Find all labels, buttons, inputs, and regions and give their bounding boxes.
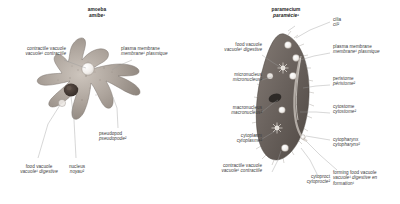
label-fr: vacuole¹ digestive [200, 47, 262, 52]
label-fr: vacuole¹ digestive en formation¹ [333, 175, 393, 186]
label-paramecium-cytoplasm: cytoplasm cytoplasme² [204, 133, 262, 144]
label-fr: pseudopode² [99, 136, 159, 141]
label-fr: cytoprocte² [278, 179, 330, 184]
label-amoeba-plasma-membrane: plasma membrane membrane¹ plasmique [121, 46, 199, 57]
label-fr: cytostome² [333, 109, 379, 114]
amoeba-title-fr: amibe¹ [72, 13, 122, 19]
label-fr: péristome² [333, 81, 379, 86]
label-paramecium-cytopharynx: cytopharynx cytopharynx² [333, 137, 381, 148]
label-fr: macronucleus² [200, 110, 262, 115]
label-paramecium-forming-food-vacuole: forming food vacuole vacuole¹ digestive … [333, 170, 393, 186]
label-amoeba-contractile-vacuole: contractile vacuole vacuole¹ contractile [0, 46, 66, 57]
label-fr: micronucleus² [200, 77, 262, 82]
label-paramecium-peristome: peristome péristome² [333, 76, 379, 87]
label-paramecium-contractile-vacuole: contractile vacuole vacuole¹ contractile [190, 163, 262, 174]
label-paramecium-cilia: cilia cil² [333, 17, 363, 28]
label-paramecium-plasma-membrane: plasma membrane membrane¹ plasmique [333, 44, 399, 55]
label-fr: cytopharynx² [333, 142, 381, 147]
label-amoeba-nucleus: nucleus noyau² [58, 164, 96, 175]
amoeba-title: amoeba amibe¹ [72, 7, 122, 18]
label-fr: noyau² [58, 169, 96, 174]
label-fr: membrane¹ plasmique [333, 49, 399, 54]
label-paramecium-cytostome: cytostome cytostome² [333, 104, 379, 115]
label-fr: cytoplasme² [204, 138, 262, 143]
label-amoeba-pseudopod: pseudopod pseudopode² [99, 131, 159, 142]
paramecium-title: paramecium paramécie¹ [259, 7, 313, 18]
amoeba-nucleus [64, 84, 78, 97]
label-paramecium-food-vacuole: food vacuole vacuole¹ digestive [200, 42, 262, 53]
label-fr: vacuole¹ contractile [190, 168, 262, 173]
label-paramecium-cytoproct: cytoproct cytoprocte² [278, 174, 330, 185]
biology-figure: amoeba amibe¹ contractile vacuole vacuol… [0, 0, 400, 204]
label-fr: membrane¹ plasmique [121, 51, 199, 56]
label-fr: vacuole¹ contractile [0, 51, 66, 56]
label-paramecium-micronucleus: micronucleus micronucleus² [200, 72, 262, 83]
paramecium-forming-food-vacuole [301, 135, 306, 140]
label-fr: cil² [333, 22, 363, 27]
amoeba-contractile-vacuole [82, 63, 94, 75]
label-paramecium-macronucleus: macronucleus macronucleus² [200, 105, 262, 116]
paramecium-title-fr: paramécie¹ [259, 13, 313, 19]
